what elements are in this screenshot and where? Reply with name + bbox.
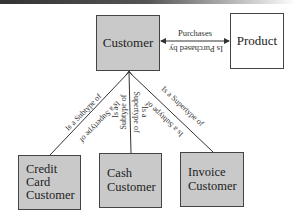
credit-card-line-1: Credit <box>26 163 75 176</box>
product-label: Product <box>237 34 277 48</box>
cash-subtype-label-2: Subtype of <box>119 94 128 129</box>
credit-card-customer-entity: Credit Card Customer <box>18 155 81 210</box>
credit-card-line-3: Customer <box>26 189 75 202</box>
customer-entity: Customer <box>96 15 160 71</box>
cash-connector <box>129 72 131 153</box>
cash-customer-entity: Cash Customer <box>99 153 162 208</box>
cash-supertype-label-1: Supertype of <box>132 91 141 132</box>
invoice-customer-entity: Invoice Customer <box>180 152 244 207</box>
is-purchased-by-label: Is Purchased by <box>168 44 223 54</box>
purchases-label: Purchases <box>178 28 212 38</box>
cash-line-1: Cash <box>107 167 156 180</box>
cash-line-2: Customer <box>107 181 156 194</box>
invoice-line-1: Invoice <box>188 166 237 179</box>
customer-label: Customer <box>103 36 154 50</box>
product-entity: Product <box>230 13 284 69</box>
invoice-line-2: Customer <box>188 180 237 193</box>
